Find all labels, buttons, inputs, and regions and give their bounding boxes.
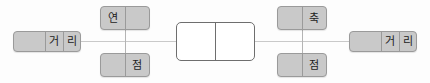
chuk-node[interactable]: 축: [277, 6, 327, 30]
jeom-node-left[interactable]: 점: [100, 53, 150, 77]
distance-node-left-cell-1: 거: [45, 32, 62, 51]
distance-node-left-cell-0: [14, 32, 45, 51]
connector-left-horizontal: [81, 41, 176, 42]
jeom-node-right[interactable]: 점: [277, 53, 327, 77]
distance-node-right-cell-1: 거: [381, 32, 398, 51]
diagram-canvas: 거 리 연 점 축 점 거 리: [0, 0, 430, 83]
chuk-node-cell-1: 축: [302, 7, 326, 29]
jeom-node-right-cell-0: [278, 54, 302, 76]
distance-node-right[interactable]: 거 리: [349, 31, 417, 52]
connector-yeon-jeom-vertical: [125, 29, 126, 54]
center-node-cell-1: [215, 23, 254, 60]
distance-node-left[interactable]: 거 리: [13, 31, 81, 52]
connector-chuk-jeom-vertical: [302, 29, 303, 54]
jeom-node-left-cell-1: 점: [125, 54, 149, 76]
chuk-node-cell-0: [278, 7, 302, 29]
center-node[interactable]: [176, 22, 255, 61]
yeon-node-cell-1: [125, 7, 149, 29]
yeon-node-cell-0: 연: [101, 7, 125, 29]
center-node-cell-0: [177, 23, 215, 60]
distance-node-right-cell-0: [350, 32, 381, 51]
yeon-node[interactable]: 연: [100, 6, 150, 30]
jeom-node-right-cell-1: 점: [302, 54, 326, 76]
jeom-node-left-cell-0: [101, 54, 125, 76]
distance-node-left-cell-2: 리: [63, 32, 80, 51]
distance-node-right-cell-2: 리: [399, 32, 416, 51]
